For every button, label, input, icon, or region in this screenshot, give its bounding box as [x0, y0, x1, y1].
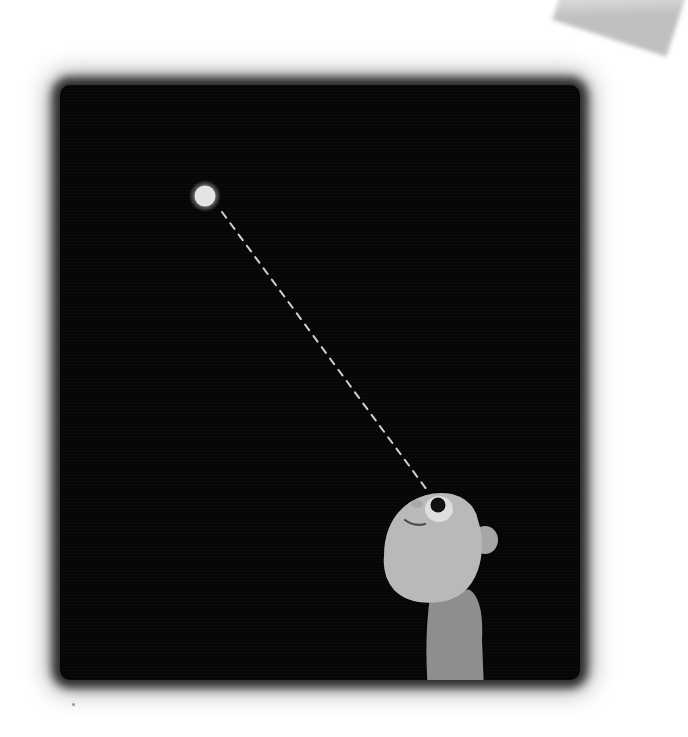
paper-speck	[72, 703, 75, 706]
figure-body	[426, 589, 484, 690]
figure-nose	[411, 500, 423, 508]
child-figure	[384, 493, 498, 690]
figure-pupil	[431, 498, 446, 513]
sight-line	[222, 212, 427, 490]
star-icon	[189, 180, 221, 212]
